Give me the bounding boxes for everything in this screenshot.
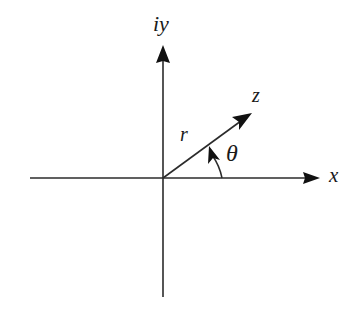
angle-theta-label: θ [226, 141, 238, 165]
diagram-canvas [0, 0, 355, 329]
angle-theta-arrowhead-icon [208, 146, 220, 164]
vector-z-label: z [252, 85, 260, 105]
complex-plane-diagram: iy x z r θ [0, 0, 355, 329]
x-axis-arrowhead-icon [303, 172, 320, 184]
y-axis-arrowhead-icon [156, 45, 170, 63]
real-axis-label: x [329, 165, 338, 186]
vector-z-arrowhead-icon [232, 113, 252, 130]
imaginary-axis-label: iy [153, 13, 169, 35]
magnitude-r-label: r [180, 124, 188, 144]
